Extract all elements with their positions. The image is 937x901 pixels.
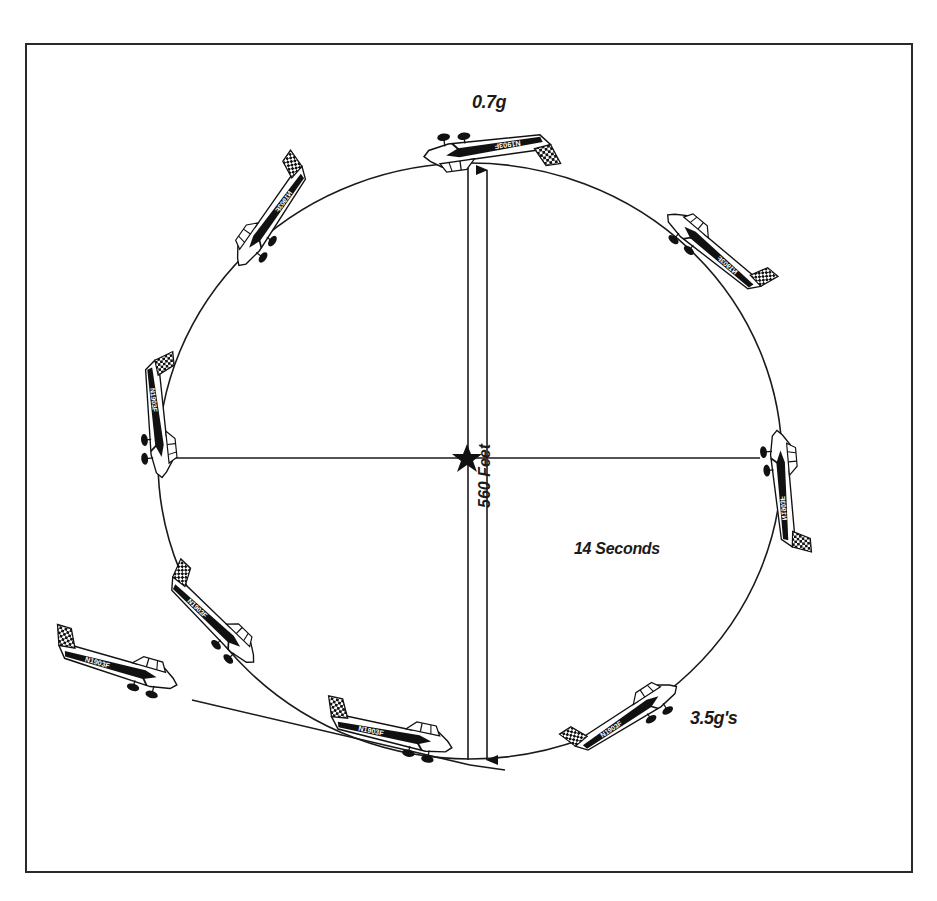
top-load-label: 0.7g (472, 92, 506, 113)
airplane-lower-left (151, 559, 270, 676)
bottom-load-label: 3.5g's (690, 708, 737, 729)
airplane-upper-right (656, 197, 778, 309)
duration-label: 14 Seconds (574, 540, 660, 558)
airplane-top (421, 118, 560, 182)
airplane-left (130, 352, 185, 480)
diagram-canvas: N1903F (0, 0, 937, 901)
loop-diagram: N1903F (0, 0, 937, 901)
airplane-right (758, 428, 811, 555)
airplane-upper-left (219, 150, 325, 276)
exit-path (470, 765, 505, 770)
diameter-label: 560 Feet (476, 444, 494, 508)
airplane-entry (45, 624, 184, 703)
airplane-lower-right (559, 667, 686, 770)
